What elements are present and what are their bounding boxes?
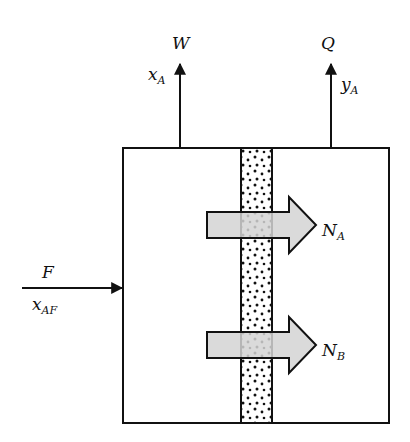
retentate-composition-label: xA xyxy=(148,64,166,87)
feed-composition-label: xAF xyxy=(32,294,58,317)
flux-a-label: NA xyxy=(321,220,345,243)
permeate-label: Q xyxy=(321,33,335,53)
feed-label: F xyxy=(41,262,55,282)
permeate-composition-label: yA xyxy=(340,74,359,97)
retentate-label: W xyxy=(172,33,191,53)
flux-b-label: NB xyxy=(321,340,345,363)
membrane xyxy=(241,148,272,423)
membrane-separator-diagram: W xA Q yA F xAF NA NB xyxy=(0,0,410,442)
